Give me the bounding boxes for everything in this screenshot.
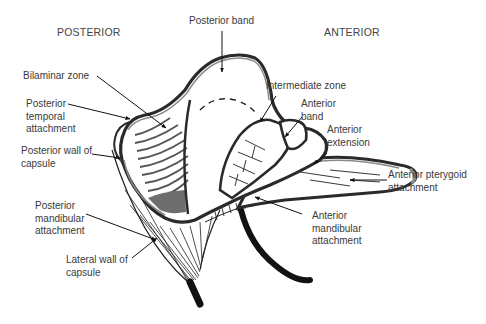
label-bilaminar-zone: Bilaminar zone	[23, 70, 89, 83]
label-intermediate-zone: Intermediate zone	[266, 80, 346, 93]
label-lateral-wall-of-capsule: Lateral wall of capsule	[66, 254, 128, 279]
leader-posterior-temporal	[68, 104, 130, 119]
label-posterior-band: Posterior band	[189, 15, 254, 28]
label-posterior: POSTERIOR	[57, 26, 121, 39]
label-posterior-temporal-attachment: Posterior temporal attachment	[26, 98, 75, 136]
label-posterior-mandibular-attachment: Posterior mandibular attachment	[35, 200, 84, 238]
label-posterior-wall-of-capsule: Posterior wall of capsule	[21, 145, 92, 170]
label-anterior-extension: Anterior extension	[327, 124, 370, 149]
label-anterior-mandibular-attachment: Anterior mandibular attachment	[312, 210, 361, 248]
leader-lateral-wall	[132, 238, 157, 258]
posterior-bone-stub	[190, 282, 200, 304]
label-anterior: ANTERIOR	[324, 26, 380, 39]
label-anterior-band: Anterior band	[301, 98, 336, 123]
label-anterior-pterygoid-attachment: Anterior pterygoid attachment	[388, 169, 467, 194]
leader-posterior-mandibular	[86, 214, 156, 240]
anterior-bone-stub	[241, 210, 310, 280]
